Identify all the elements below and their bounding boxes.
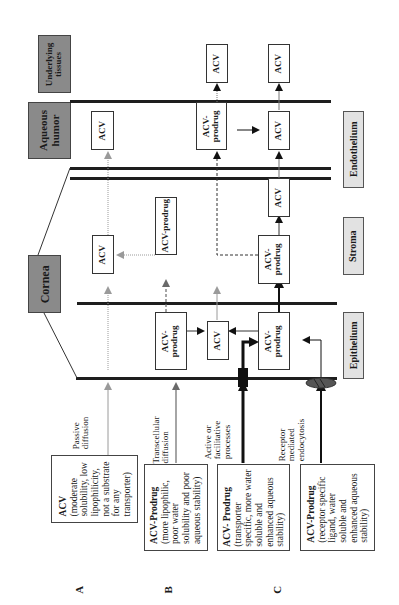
panel-label-b: B [163,586,175,593]
panel-label-c: C [272,586,284,594]
route-label-passive-diffusion: Passive diffusion [66,403,96,463]
acv-aqueous-active: ACV [268,111,290,150]
description-acv: ACV (moderate solubility, low lipophilic… [51,455,138,523]
cornea-bracket-top [38,168,70,255]
description-acv-prodrug-b: ACV-Prodrug (more lipophilic, poor water… [144,464,208,551]
cornea-bracket-bottom [44,313,77,378]
acv-underlying-1: ACV [206,44,228,83]
acv-prodrug-aqueous: ACV- prodrug [196,102,227,150]
acv-prodrug-stroma-c: ACV- prodrug [258,235,290,284]
description-acv-prodrug-c-transporter: ACV- Prodrug (transporter specific, more… [217,464,290,551]
acv-stroma-passive: ACV [92,235,114,274]
acv-endothelium: ACV [268,178,290,217]
transporter-shape [238,368,248,387]
acv-prodrug-label: ACV- prodrug [202,110,221,142]
acv-epithelium: ACV [207,321,229,360]
acv-aqueous-passive: ACV [91,111,114,150]
acv-underlying-2: ACV [268,44,290,83]
acv-prodrug-epithelium-c: ACV- prodrug [258,312,290,370]
panel-label-a: A [74,586,86,594]
acv-prodrug-epithelium-b: ACV- prodrug [155,312,187,370]
receptor-shape [306,378,336,388]
acv-prodrug-stroma-b: ACV-prodrug [155,197,177,255]
description-acv-prodrug-c-receptor: ACV-Prodrug (receptor specific ligand, w… [300,464,375,551]
